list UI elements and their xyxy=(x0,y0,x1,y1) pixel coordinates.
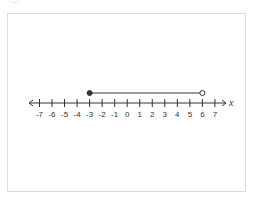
tick-label: -2 xyxy=(99,110,107,119)
tick-label: -3 xyxy=(86,110,94,119)
tick-label: 7 xyxy=(213,110,218,119)
number-line: -7-6-5-4-3-2-101234567x xyxy=(0,0,257,203)
tick-label: -5 xyxy=(61,110,69,119)
open-endpoint-icon xyxy=(200,91,205,96)
tick-label: -7 xyxy=(36,110,44,119)
tick-label: 5 xyxy=(188,110,193,119)
tick-label: 1 xyxy=(138,110,143,119)
tick-label: 2 xyxy=(150,110,155,119)
closed-endpoint-icon xyxy=(87,91,92,96)
tick-label: 6 xyxy=(200,110,205,119)
tick-label: -6 xyxy=(48,110,56,119)
tick-label: 0 xyxy=(125,110,130,119)
tick-label: -1 xyxy=(111,110,119,119)
axis-variable-label: x xyxy=(228,97,234,108)
tick-label: 4 xyxy=(175,110,180,119)
tick-label: -4 xyxy=(74,110,82,119)
tick-label: 3 xyxy=(163,110,168,119)
